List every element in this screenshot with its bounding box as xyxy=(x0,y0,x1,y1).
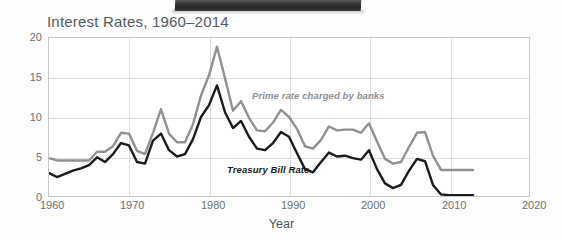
series-label-treasury-bill: Treasury Bill Rate xyxy=(227,164,309,175)
series-label-prime: Prime rate charged by banks xyxy=(252,90,385,101)
chart-title: Interest Rates, 1960–2014 xyxy=(47,13,229,30)
scan-artifact-bar xyxy=(175,0,362,11)
x-axis-label: Year xyxy=(0,217,563,231)
prime-rate-line xyxy=(49,47,473,170)
x-tick-2010: 2010 xyxy=(442,199,492,211)
x-tick-1960: 1960 xyxy=(40,199,90,211)
treasury-bill-line xyxy=(49,85,473,195)
y-tick-0: 0 xyxy=(8,191,42,203)
x-tick-1980: 1980 xyxy=(201,199,251,211)
x-tick-2020: 2020 xyxy=(522,199,563,211)
y-tick-15: 15 xyxy=(8,71,42,83)
plot-area: Prime rate charged by banks Treasury Bil… xyxy=(48,37,530,197)
y-tick-20: 20 xyxy=(8,31,42,43)
x-tick-1970: 1970 xyxy=(120,199,170,211)
x-tick-2000: 2000 xyxy=(361,199,411,211)
x-tick-1990: 1990 xyxy=(281,199,331,211)
y-tick-5: 5 xyxy=(8,151,42,163)
chart-figure: Interest Rates, 1960–2014 20 15 10 5 0 1… xyxy=(0,0,563,241)
y-tick-10: 10 xyxy=(8,111,42,123)
